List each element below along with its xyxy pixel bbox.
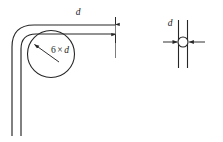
thickness-label-detail: d xyxy=(168,18,173,28)
bent-tube-view: 6×d d xyxy=(12,7,116,136)
bend-radius-label: 6×d xyxy=(51,45,69,55)
tube-outer-profile-line xyxy=(12,25,116,136)
bend-radius-multiply-text: × xyxy=(57,45,62,55)
bend-radius-factor-text: 6 xyxy=(51,45,56,55)
technical-drawing-figure: 6×d d d xyxy=(0,0,223,142)
thickness-label-main: d xyxy=(76,7,81,17)
cross-section-detail-view: d xyxy=(163,18,205,68)
figure-canvas: 6×d d d xyxy=(0,0,223,142)
wire-cross-section-circle xyxy=(178,37,188,47)
bend-radius-symbol-text: d xyxy=(64,45,69,55)
